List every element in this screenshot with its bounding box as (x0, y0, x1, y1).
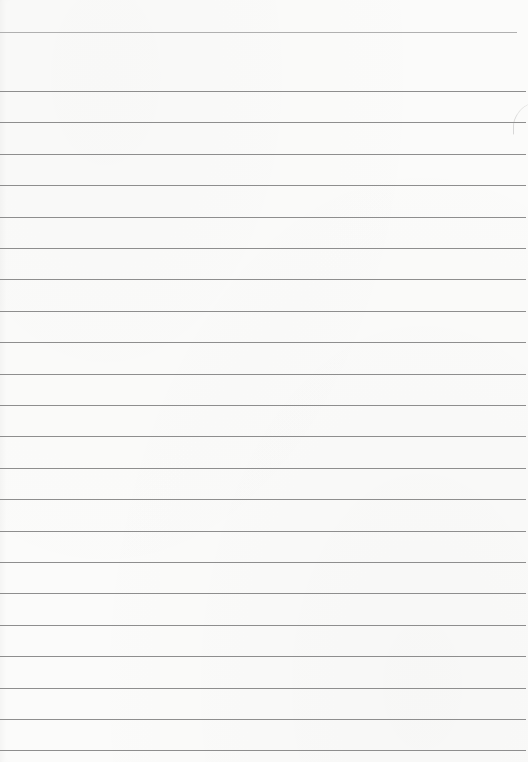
rule-line (0, 185, 526, 186)
rule-line (0, 405, 526, 406)
rule-line (0, 593, 526, 594)
rule-line (0, 248, 526, 249)
rule-line (0, 374, 526, 375)
rule-line (0, 750, 526, 751)
rule-line (0, 656, 526, 657)
rule-line (0, 436, 526, 437)
rule-line (0, 625, 526, 626)
paper-edge-curl (513, 104, 528, 135)
rule-line (0, 468, 526, 469)
rule-line (0, 311, 526, 312)
rule-line (0, 688, 526, 689)
rule-line (0, 719, 526, 720)
rule-line (0, 562, 526, 563)
rule-line (0, 499, 526, 500)
header-rule-line (0, 32, 517, 33)
rule-line (0, 154, 526, 155)
rule-line (0, 531, 526, 532)
rule-line (0, 279, 526, 280)
rule-line (0, 122, 526, 123)
lined-paper-sheet (0, 0, 528, 762)
rule-line (0, 91, 526, 92)
rule-line (0, 342, 526, 343)
rule-line (0, 217, 526, 218)
